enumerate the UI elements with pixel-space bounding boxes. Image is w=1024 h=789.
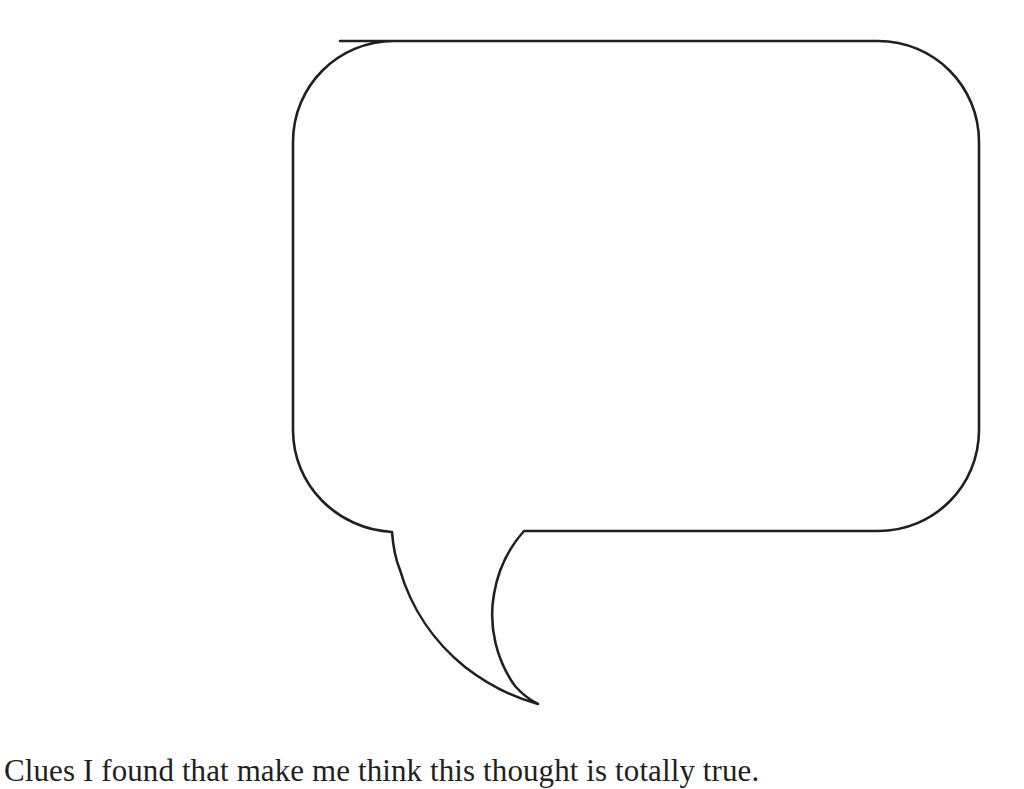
speech-bubble-canvas bbox=[0, 0, 1024, 789]
worksheet-page: Clues I found that make me think this th… bbox=[0, 0, 1024, 789]
speech-bubble-shape[interactable] bbox=[293, 41, 979, 704]
caption-text: Clues I found that make me think this th… bbox=[4, 752, 1020, 789]
